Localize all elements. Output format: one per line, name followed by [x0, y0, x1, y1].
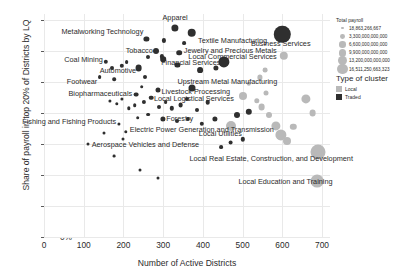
data-point[interactable] — [113, 155, 116, 158]
gridline-vertical — [123, 14, 124, 237]
data-point[interactable] — [103, 132, 106, 135]
legend-type-label: Local — [345, 86, 357, 92]
data-point[interactable] — [212, 117, 217, 122]
legend-type-swatch — [336, 86, 342, 92]
data-point[interactable] — [127, 107, 130, 110]
legend-total-payroll-rows: 18,863,266,6673,300,000,000,0006,600,000… — [336, 24, 406, 73]
data-point-labeled[interactable] — [171, 24, 178, 31]
point-label: Coal Mining — [64, 54, 103, 63]
x-axis-tick-label: 600 — [262, 240, 302, 250]
data-point-labeled[interactable] — [87, 143, 90, 146]
data-point[interactable] — [133, 104, 137, 108]
data-point[interactable] — [234, 112, 240, 118]
data-point[interactable] — [162, 38, 166, 42]
legend-size-row: 3,300,000,000,000 — [336, 32, 406, 40]
data-point[interactable] — [115, 102, 118, 105]
data-point-labeled[interactable] — [98, 76, 102, 80]
data-point-labeled[interactable] — [117, 122, 120, 125]
y-axis-title: Share of payroll in top 20% of Districts… — [21, 0, 31, 215]
point-label: Local Commercial Services — [188, 51, 276, 60]
legend-size-bubble — [336, 64, 349, 74]
data-point[interactable] — [254, 98, 259, 103]
x-axis-tick-label: 0 — [24, 240, 64, 250]
data-point[interactable] — [149, 95, 154, 100]
x-axis-title: Number of Active Districts — [42, 258, 332, 268]
legend-size-label: 9,900,000,000,000 — [349, 50, 387, 55]
data-point[interactable] — [146, 113, 150, 117]
data-point[interactable] — [140, 85, 144, 89]
data-point[interactable] — [170, 106, 174, 110]
legend-size-label: 18,863,266,667 — [349, 26, 381, 31]
legend-size-label: 16,511,250,663,323 — [349, 67, 390, 72]
data-point-labeled[interactable] — [144, 36, 149, 41]
legend-size-row: 6,600,000,000,000 — [336, 40, 406, 48]
legend-type-swatch — [336, 94, 342, 100]
data-point-labeled[interactable] — [153, 48, 159, 54]
data-point[interactable] — [112, 77, 116, 81]
data-point[interactable] — [195, 108, 199, 112]
data-point[interactable] — [143, 75, 147, 79]
data-point[interactable] — [219, 145, 223, 149]
x-axis-tick-label: 200 — [103, 240, 143, 250]
data-point[interactable] — [264, 90, 269, 95]
data-point-labeled[interactable] — [280, 52, 288, 60]
data-point[interactable] — [178, 103, 183, 108]
legend-size-bubble — [336, 27, 349, 29]
point-label: Automotive — [100, 65, 137, 74]
legend-size-bubble — [336, 41, 349, 47]
data-point[interactable] — [240, 137, 244, 141]
data-point-labeled[interactable] — [176, 50, 182, 56]
legend-size-bubble — [336, 34, 349, 39]
legend-type-row[interactable]: Traded — [336, 93, 406, 101]
legend-type-of-cluster-rows: LocalTraded — [336, 85, 406, 101]
data-point-labeled[interactable] — [134, 92, 139, 97]
bubble-scatter-chart: Share of payroll in top 20% of Districts… — [0, 0, 406, 277]
legend-total-payroll-title: Total payroll — [336, 17, 406, 23]
data-point[interactable] — [262, 67, 267, 72]
data-point[interactable] — [258, 104, 265, 111]
point-label: Local Utilities — [199, 129, 242, 138]
legend-type-of-cluster: Type of cluster LocalTraded — [336, 74, 406, 101]
data-point[interactable] — [125, 60, 129, 64]
gridline-horizontal — [44, 206, 330, 207]
point-label: Biopharmaceuticals — [68, 88, 132, 97]
legend-type-row[interactable]: Local — [336, 85, 406, 93]
data-point-labeled[interactable] — [161, 117, 166, 122]
point-label: Apparel — [163, 13, 188, 22]
data-point[interactable] — [309, 110, 316, 117]
legend-type-of-cluster-title: Type of cluster — [336, 74, 406, 83]
legend-size-label: 13,200,000,000,000 — [349, 58, 390, 63]
data-point[interactable] — [157, 105, 161, 109]
data-point[interactable] — [283, 137, 291, 145]
gridline-vertical — [44, 14, 45, 237]
point-label: Upstream Metal Manufacturing — [177, 76, 277, 85]
data-point[interactable] — [290, 124, 296, 130]
gridline-vertical — [84, 14, 85, 237]
data-point[interactable] — [197, 67, 203, 73]
x-axis-tick-label: 300 — [143, 240, 183, 250]
data-point[interactable] — [266, 112, 272, 118]
legend-size-label: 3,300,000,000,000 — [349, 34, 387, 39]
legend-total-payroll: Total payroll 18,863,266,6673,300,000,00… — [336, 17, 406, 73]
data-point-labeled[interactable] — [239, 92, 247, 100]
legend-size-label: 6,600,000,000,000 — [349, 42, 387, 47]
data-point[interactable] — [156, 177, 159, 180]
data-point-labeled[interactable] — [103, 60, 107, 64]
data-point[interactable] — [146, 55, 150, 59]
point-label: Business Services — [251, 39, 311, 48]
x-axis-tick-label: 400 — [183, 240, 223, 250]
data-point-labeled[interactable] — [187, 28, 196, 37]
data-point[interactable] — [228, 140, 233, 145]
data-point[interactable] — [108, 99, 111, 102]
data-point[interactable] — [139, 169, 142, 172]
data-point-labeled[interactable] — [156, 87, 161, 92]
data-point[interactable] — [302, 95, 311, 104]
point-label: Local Logistical Services — [154, 93, 234, 102]
legend-type-label: Traded — [345, 94, 361, 100]
data-point[interactable] — [142, 100, 146, 104]
point-label: Local Education and Training — [238, 177, 332, 186]
data-point-labeled[interactable] — [124, 130, 127, 133]
point-label: Footwear — [67, 76, 97, 85]
data-point[interactable] — [136, 116, 140, 120]
data-point-labeled[interactable] — [135, 65, 142, 72]
